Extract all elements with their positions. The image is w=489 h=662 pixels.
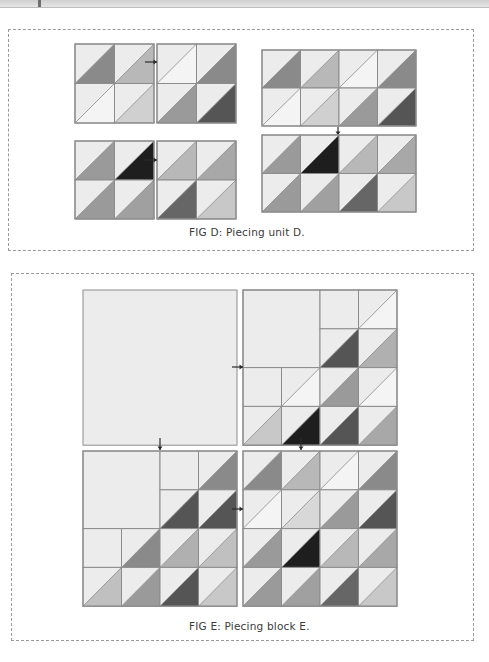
- quilt-diagram: [0, 0, 489, 662]
- full-hst-block: [243, 451, 397, 606]
- half-square-triangle: [115, 44, 155, 84]
- unit-ab-joined: [262, 50, 416, 126]
- half-square-triangle: [157, 141, 197, 180]
- plain-large-square: [83, 451, 160, 529]
- half-square-triangle: [83, 567, 122, 606]
- half-square-triangle: [157, 84, 197, 124]
- half-square-triangle: [75, 180, 115, 219]
- half-square-triangle: [339, 88, 378, 126]
- unit-d: [157, 141, 236, 219]
- half-square-triangle: [262, 50, 301, 88]
- half-square-triangle: [243, 567, 282, 606]
- half-square-triangle: [122, 529, 161, 568]
- half-square-triangle: [359, 368, 398, 407]
- half-square-triangle: [359, 406, 398, 445]
- unit-a: [75, 44, 154, 123]
- half-square-triangle: [115, 180, 155, 219]
- cell-background: [320, 290, 359, 329]
- half-square-triangle: [282, 567, 321, 606]
- half-square-triangle: [320, 567, 359, 606]
- half-square-triangle: [301, 174, 340, 213]
- half-square-triangle: [339, 50, 378, 88]
- half-square-triangle: [320, 368, 359, 407]
- half-square-triangle: [320, 451, 359, 490]
- half-square-triangle: [262, 135, 301, 174]
- half-square-triangle: [197, 141, 237, 180]
- arrow-head: [299, 447, 304, 451]
- plain-square-cell: [320, 290, 359, 329]
- half-square-triangle: [199, 490, 238, 529]
- half-square-triangle: [157, 44, 197, 84]
- half-square-triangle: [359, 290, 398, 329]
- half-square-triangle: [243, 529, 282, 568]
- cell-background: [243, 368, 282, 407]
- plain-square-block: [83, 290, 237, 445]
- unit-cd-joined: [262, 135, 416, 212]
- half-square-triangle: [282, 490, 321, 529]
- half-square-triangle: [243, 406, 282, 445]
- half-square-triangle: [339, 174, 378, 213]
- half-square-triangle: [378, 50, 417, 88]
- half-square-triangle: [122, 567, 161, 606]
- plain-square: [83, 290, 237, 445]
- fig-e-caption: FIG E: Piecing block E.: [189, 620, 310, 632]
- plain-large-square: [243, 290, 320, 368]
- half-square-triangle: [301, 88, 340, 126]
- half-square-triangle: [199, 529, 238, 568]
- half-square-triangle: [320, 329, 359, 368]
- half-square-triangle: [160, 529, 199, 568]
- stair-block-top: [243, 290, 397, 445]
- cell-background: [83, 529, 122, 568]
- half-square-triangle: [320, 406, 359, 445]
- half-square-triangle: [378, 135, 417, 174]
- half-square-triangle: [197, 84, 237, 124]
- unit-c: [75, 141, 154, 219]
- half-square-triangle: [197, 44, 237, 84]
- half-square-triangle: [75, 44, 115, 84]
- half-square-triangle: [301, 135, 340, 174]
- half-square-triangle: [282, 529, 321, 568]
- plain-square-cell: [243, 368, 282, 407]
- plain-square-cell: [83, 529, 122, 568]
- stair-block-bottom: [83, 451, 237, 606]
- half-square-triangle: [160, 490, 199, 529]
- half-square-triangle: [359, 451, 398, 490]
- half-square-triangle: [199, 451, 238, 490]
- half-square-triangle: [359, 567, 398, 606]
- half-square-triangle: [359, 529, 398, 568]
- half-square-triangle: [262, 174, 301, 213]
- half-square-triangle: [282, 451, 321, 490]
- half-square-triangle: [243, 451, 282, 490]
- half-square-triangle: [378, 88, 417, 126]
- half-square-triangle: [160, 567, 199, 606]
- half-square-triangle: [197, 180, 237, 219]
- half-square-triangle: [262, 88, 301, 126]
- half-square-triangle: [320, 490, 359, 529]
- half-square-triangle: [301, 50, 340, 88]
- half-square-triangle: [199, 567, 238, 606]
- arrow-head: [158, 447, 163, 451]
- half-square-triangle: [359, 490, 398, 529]
- half-square-triangle: [115, 84, 155, 124]
- half-square-triangle: [243, 490, 282, 529]
- half-square-triangle: [378, 174, 417, 213]
- half-square-triangle: [157, 180, 197, 219]
- fig-d-caption: FIG D: Piecing unit D.: [189, 226, 305, 238]
- half-square-triangle: [359, 329, 398, 368]
- plain-square-cell: [160, 451, 199, 490]
- half-square-triangle: [75, 84, 115, 124]
- cell-background: [160, 451, 199, 490]
- half-square-triangle: [75, 141, 115, 180]
- half-square-triangle: [339, 135, 378, 174]
- unit-b: [157, 44, 236, 123]
- half-square-triangle: [282, 368, 321, 407]
- half-square-triangle: [320, 529, 359, 568]
